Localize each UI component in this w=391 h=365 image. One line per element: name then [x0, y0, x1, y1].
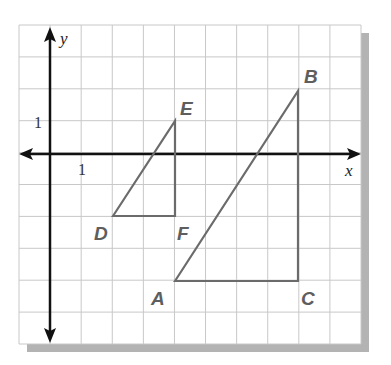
- vertex-label-b: B: [304, 66, 318, 87]
- vertex-label-c: C: [301, 288, 315, 309]
- vertex-label-d: D: [94, 223, 108, 244]
- vertex-label-a: A: [150, 288, 165, 309]
- vertex-label-e: E: [180, 98, 194, 119]
- x-tick-label-1: 1: [78, 161, 86, 178]
- y-tick-label-1: 1: [34, 114, 42, 131]
- coordinate-plane: y x 1 1 E D F B A C: [0, 0, 391, 365]
- x-axis-label: x: [344, 161, 353, 180]
- y-axis-label: y: [58, 29, 68, 48]
- vertex-label-f: F: [177, 223, 190, 244]
